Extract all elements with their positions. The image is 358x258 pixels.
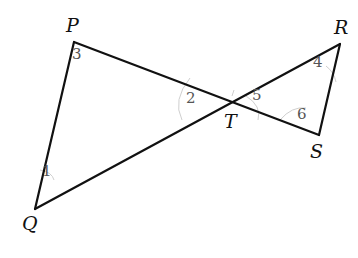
angle-label-1: 1	[42, 164, 52, 179]
tick-mark	[232, 90, 234, 96]
vertex-label-P: P	[66, 16, 79, 35]
geometry-diagram: P Q T R S 1 2 3 4 5 6	[0, 0, 358, 258]
vertex-label-T: T	[224, 112, 237, 131]
diagram-lines	[0, 0, 358, 258]
angle-label-6: 6	[297, 107, 307, 122]
angle-label-5: 5	[252, 88, 262, 103]
segment-PQ	[35, 42, 74, 209]
vertex-label-S: S	[310, 142, 323, 161]
angle-label-4: 4	[313, 55, 323, 70]
angle-label-2: 2	[186, 91, 196, 106]
vertex-label-Q: Q	[22, 214, 38, 233]
angle-label-3: 3	[72, 47, 82, 62]
vertex-label-R: R	[334, 18, 348, 37]
